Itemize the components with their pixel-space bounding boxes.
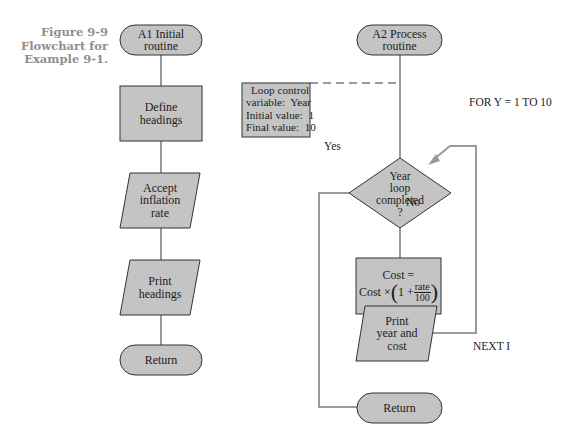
decision-text: Year loop completed ?: [355, 165, 445, 223]
accept-rate-text: Accept inflation rate: [120, 173, 200, 228]
next-label: NEXT I: [473, 340, 510, 352]
caption-line-2: Flowchart for: [20, 40, 108, 54]
accept-line-3: rate: [151, 207, 169, 220]
figure-caption: Figure 9-9 Flowchart for Example 9-1.: [20, 26, 108, 67]
print-headings-text: Print headings: [120, 260, 200, 315]
compute-formula: Cost × ( 1 + rate 100 ): [359, 282, 438, 303]
caption-line-3: Example 9-1.: [20, 53, 108, 67]
left-start-line-2: routine: [144, 40, 178, 53]
caption-line-1: Figure 9-9: [20, 26, 108, 40]
open-paren: (: [391, 282, 398, 302]
decision-line-2: loop: [390, 182, 410, 194]
right-return-label: Return: [383, 402, 416, 415]
left-start-text: A1 Initial routine: [120, 25, 202, 55]
decision-line-4: ?: [397, 206, 402, 218]
loop-note-line-1: Loop control: [246, 84, 312, 96]
right-return-text: Return: [357, 393, 442, 423]
yes-label: Yes: [324, 140, 341, 152]
for-loop-label: FOR Y = 1 TO 10: [469, 96, 552, 108]
compute-one-plus: 1 +: [398, 286, 414, 299]
decision-line-1: Year: [389, 170, 410, 182]
compute-prefix: Cost ×: [359, 286, 391, 299]
compute-line-1: Cost =: [383, 269, 415, 282]
accept-line-2: inflation: [140, 194, 181, 207]
loop-note-text: Loop control variable: Year Initial valu…: [246, 84, 312, 133]
right-start-line-2: routine: [383, 40, 417, 53]
define-line-2: headings: [140, 114, 183, 127]
loop-note-line-3: Initial value: 1: [246, 109, 312, 121]
right-start-text: A2 Process routine: [357, 25, 442, 55]
left-return-text: Return: [120, 345, 202, 375]
rate-fraction: rate 100: [414, 282, 431, 303]
define-headings-text: Define headings: [120, 86, 202, 141]
left-return-label: Return: [145, 354, 178, 367]
close-paren: ): [431, 282, 438, 302]
loop-note-line-2: variable: Year: [246, 96, 312, 108]
loop-note-line-4: Final value: 10: [246, 121, 312, 133]
print-year-line-3: cost: [387, 340, 406, 353]
fraction-denominator: 100: [415, 293, 430, 303]
print-headings-line-1: Print: [148, 275, 171, 288]
print-year-cost-text: Print year and cost: [358, 306, 436, 361]
print-headings-line-2: headings: [139, 288, 182, 301]
no-label: No: [406, 196, 420, 208]
print-year-line-2: year and: [377, 327, 418, 340]
define-line-1: Define: [145, 101, 178, 114]
